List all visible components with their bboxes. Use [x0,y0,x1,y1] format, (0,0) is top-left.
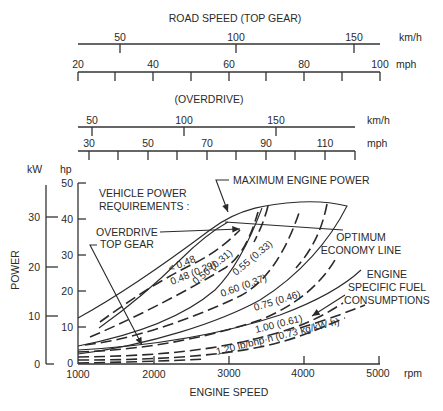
svg-text:40: 40 [147,58,159,70]
road-speed-title: ROAD SPEED (TOP GEAR) [169,12,302,24]
svg-text:mph: mph [367,137,388,149]
overdrive-label: OVERDRIVE [96,226,158,238]
svg-text:110: 110 [317,137,334,149]
svg-text:10: 10 [61,321,73,333]
svg-text:150: 150 [267,114,285,126]
mph-unit: mph [396,58,417,70]
svg-text:kW: kW [27,163,42,175]
svg-text:5000: 5000 [366,367,390,379]
svg-text:0: 0 [34,358,40,370]
svg-text:40: 40 [61,213,73,225]
max-engine-power-label: MAXIMUM ENGINE POWER [233,174,370,186]
svg-text:90: 90 [260,137,272,149]
svg-text:50: 50 [61,177,73,189]
power-axis-title: POWER [9,250,21,290]
svg-text:10: 10 [28,310,40,322]
svg-text:4000: 4000 [291,367,315,379]
svg-text:100: 100 [175,114,193,126]
svg-text:km/h: km/h [367,114,390,126]
svg-text:150: 150 [345,31,363,43]
svg-text:100: 100 [227,31,245,43]
sfc-label: ENGINE [367,268,407,280]
svg-text:60: 60 [223,58,235,70]
optimum-label: OPTIMUM [336,231,386,243]
svg-text:CONSUMPTIONS: CONSUMPTIONS [344,294,430,306]
svg-text:3000: 3000 [217,367,241,379]
svg-text:30: 30 [28,211,40,223]
kw-axis: kW 0 10 20 30 POWER [9,163,58,370]
svg-text:30: 30 [61,249,73,261]
svg-text:80: 80 [298,58,310,70]
svg-text:20: 20 [28,261,40,273]
svg-text:rpm: rpm [404,367,422,379]
svg-text:2000: 2000 [142,368,166,380]
svg-text:100: 100 [371,58,389,70]
engine-power-diagram: ROAD SPEED (TOP GEAR) 50 100 150 km/h 20… [0,0,443,411]
top-gear-kmh-scale: 50 100 150 km/h [78,31,422,53]
engine-speed-title: ENGINE SPEED [190,386,269,398]
svg-text:REQUIREMENTS :: REQUIREMENTS : [99,200,189,212]
overdrive-title: (OVERDRIVE) [175,93,244,105]
svg-text:hp: hp [60,163,72,175]
svg-text:20: 20 [61,285,73,297]
vehicle-power-label: VEHICLE POWER [99,187,187,199]
svg-text:50: 50 [114,31,126,43]
top-gear-label: TOP GEAR [100,238,154,250]
svg-text:50: 50 [86,114,98,126]
overdrive-kmh-scale: 50 100 150 km/h [78,114,390,136]
svg-text:SPECIFIC FUEL: SPECIFIC FUEL [348,281,426,293]
svg-text:30: 30 [83,137,95,149]
svg-text:50: 50 [142,137,154,149]
overdrive-mph-scale: 30 50 70 90 110 mph [78,137,388,160]
kmh-unit: km/h [399,31,422,43]
top-gear-mph-scale: 20 40 60 80 100 mph [72,58,416,81]
svg-text:1000: 1000 [66,368,90,380]
svg-text:70: 70 [201,137,213,149]
svg-text:20: 20 [72,58,84,70]
svg-text:ECONOMY LINE: ECONOMY LINE [321,244,401,256]
optimum-economy-line [225,222,343,230]
